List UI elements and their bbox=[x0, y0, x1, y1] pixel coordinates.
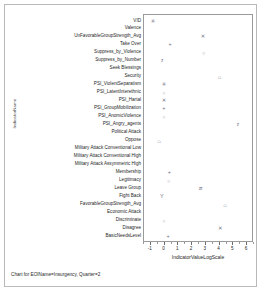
data-point: + bbox=[162, 106, 165, 111]
category-label: PSI_AnomicViolence bbox=[98, 114, 141, 119]
y-axis-category-labels: VIDValenceUnFavorableGroupStrength_AvgTa… bbox=[23, 14, 141, 242]
x-tick-minor bbox=[239, 242, 240, 244]
x-tick-minor bbox=[226, 242, 227, 244]
x-axis-title: IndicatorValueLogScale bbox=[143, 254, 253, 260]
category-label: Economic Attack bbox=[107, 209, 141, 214]
data-point: ○ bbox=[167, 178, 170, 183]
x-tick-label: 3 bbox=[204, 246, 207, 251]
data-point: ⌂ bbox=[157, 138, 161, 144]
x-tick-label: 0 bbox=[162, 246, 165, 251]
category-label: Political Attack bbox=[111, 130, 141, 135]
x-tick-label: 6 bbox=[245, 246, 248, 251]
category-label: VID bbox=[133, 18, 141, 23]
category-label: PSI_LatentInterethnic bbox=[97, 90, 141, 95]
category-label: Military Attack Conventional Low bbox=[75, 146, 141, 151]
category-label: FavorableGroupStrength_Avg bbox=[80, 201, 141, 206]
category-label: Membership bbox=[116, 169, 141, 174]
x-tick-minor bbox=[253, 242, 254, 244]
x-tick-label: 1 bbox=[176, 246, 179, 251]
x-tick-minor bbox=[212, 242, 213, 244]
data-point: ○ bbox=[162, 91, 165, 96]
plot-area: ✳✕+○z⌂✳○✕+○z⌂+○zzY⌂○✕+ bbox=[143, 14, 253, 242]
data-point: + bbox=[168, 170, 171, 175]
x-tick-minor bbox=[184, 242, 185, 244]
category-label: Take Over bbox=[120, 42, 141, 47]
x-axis: -10123456 bbox=[143, 242, 253, 247]
x-tick-minor bbox=[157, 242, 158, 244]
data-point: zz bbox=[199, 186, 202, 191]
category-label: Suppress_by_Violence bbox=[94, 50, 141, 55]
category-label: Disagree bbox=[123, 225, 141, 230]
category-label: PSI_ViolentSeparatism bbox=[94, 82, 141, 87]
data-point: z bbox=[161, 59, 163, 64]
chart-caption: Chart for EOIName=Insurgency, Quarter=2 bbox=[11, 272, 100, 277]
data-point: ✳ bbox=[162, 83, 167, 88]
category-label: Fight Back bbox=[119, 193, 141, 198]
x-tick-label: 4 bbox=[217, 246, 220, 251]
y-axis-title: IndicatorName bbox=[12, 84, 17, 144]
category-label: Oppose bbox=[125, 138, 141, 143]
x-tick-label: 5 bbox=[231, 246, 234, 251]
category-label: Military Attack Conventional High bbox=[74, 154, 141, 159]
data-point: ✕ bbox=[162, 98, 167, 103]
data-point: ○ bbox=[202, 51, 205, 56]
category-label: PSI_Hartal bbox=[119, 98, 141, 103]
x-tick-label: -1 bbox=[148, 246, 152, 251]
x-tick-minor bbox=[198, 242, 199, 244]
category-label: UnFavorableGroupStrength_Avg bbox=[74, 34, 141, 39]
category-label: Valence bbox=[125, 26, 141, 31]
x-tick-minor bbox=[171, 242, 172, 244]
data-point: ○ bbox=[162, 115, 165, 120]
data-point: + bbox=[166, 234, 169, 239]
category-label: PSI_GroupMobilization bbox=[94, 106, 141, 111]
category-label: Military Attack Assymmetric High bbox=[75, 162, 141, 167]
data-point: ⌂ bbox=[218, 74, 222, 80]
chart-panel: IndicatorName VIDValenceUnFavorableGroup… bbox=[4, 4, 257, 287]
category-label: Discriminate bbox=[116, 217, 141, 222]
x-tick-minor bbox=[143, 242, 144, 244]
category-label: PSI_Angry_agents bbox=[103, 122, 141, 127]
data-point: ✳ bbox=[151, 19, 156, 24]
data-point: ⌂ bbox=[223, 202, 227, 208]
category-label: Suppress_by_Number bbox=[95, 58, 141, 63]
data-point: Y bbox=[160, 194, 164, 199]
category-label: BasicNeedsLevel bbox=[106, 233, 142, 238]
data-point: ○ bbox=[162, 218, 165, 223]
category-label: Seek Blessings bbox=[110, 66, 141, 71]
category-label: Leave Group bbox=[114, 185, 141, 190]
data-point: ✕ bbox=[218, 226, 223, 231]
category-label: Legitimacy bbox=[119, 177, 141, 182]
x-tick-label: 2 bbox=[190, 246, 193, 251]
data-point: ✕ bbox=[201, 35, 206, 40]
category-label: Security bbox=[124, 74, 141, 79]
data-point: z bbox=[237, 123, 239, 128]
data-point: + bbox=[169, 43, 172, 48]
